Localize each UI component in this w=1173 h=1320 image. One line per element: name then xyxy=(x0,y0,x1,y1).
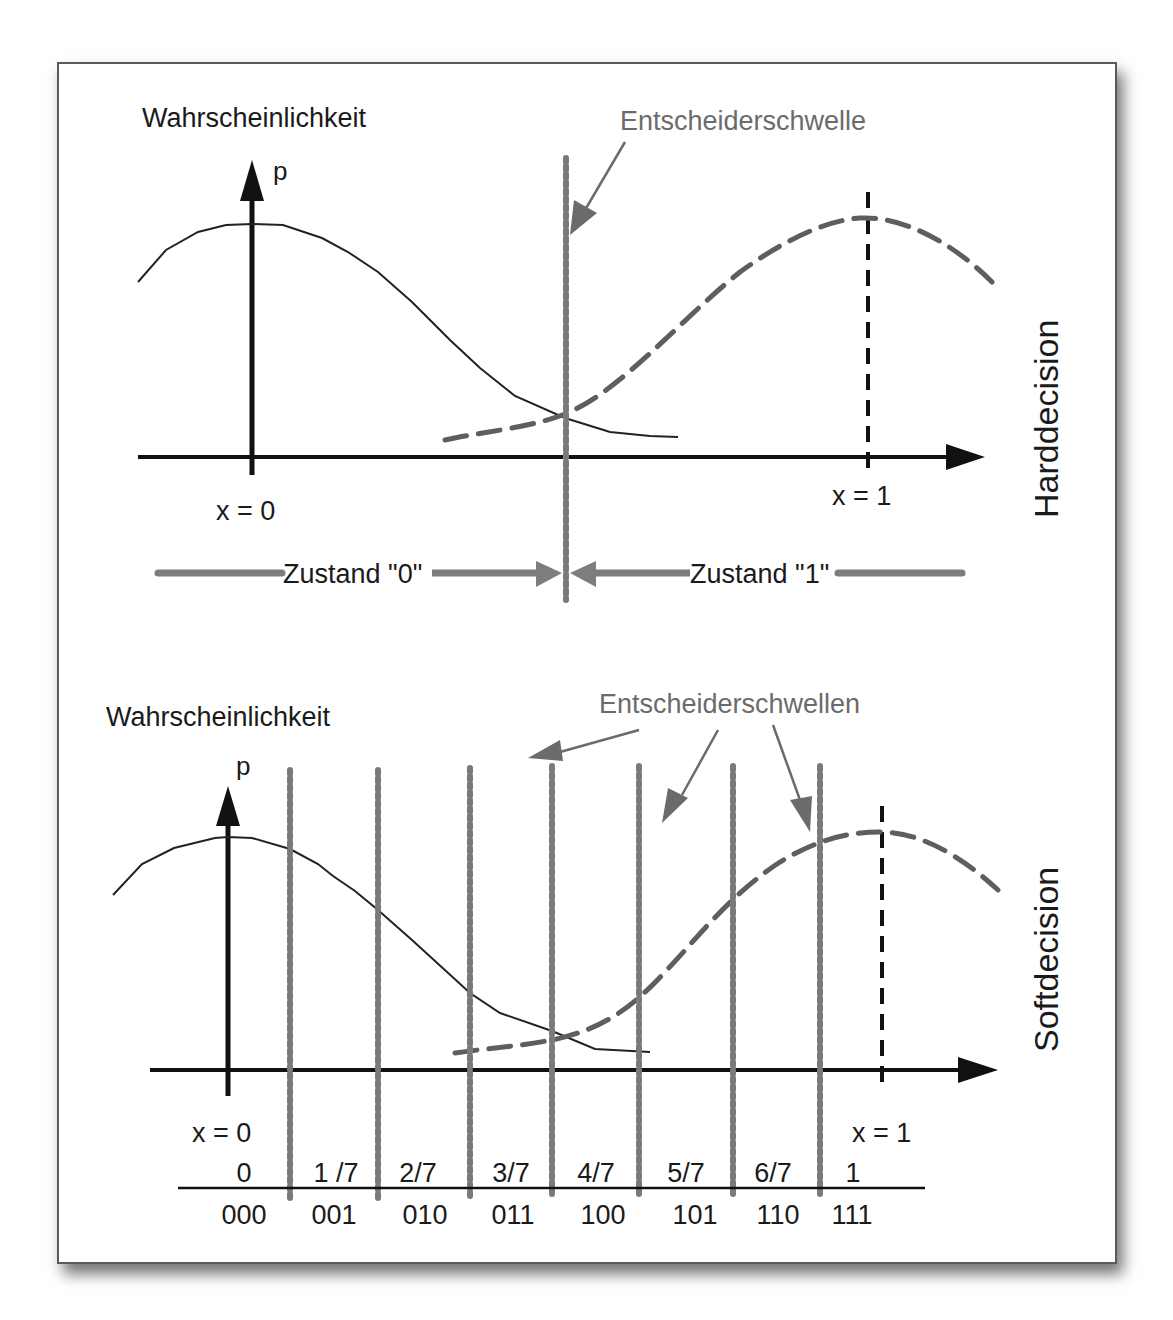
level-label: 3/7 xyxy=(492,1158,530,1188)
bottom-x0-label: x = 0 xyxy=(192,1118,251,1148)
level-label: 2/7 xyxy=(399,1158,437,1188)
code-label: 110 xyxy=(756,1200,799,1230)
top-distribution-curve-1 xyxy=(445,218,992,440)
level-label: 4/7 xyxy=(577,1158,615,1188)
bottom-y-axis-symbol: p xyxy=(236,751,250,781)
code-label: 001 xyxy=(311,1200,356,1230)
annotation-arrow-line xyxy=(682,730,718,795)
top-distribution-curve-0 xyxy=(138,224,678,437)
zone0-label: Zustand "0" xyxy=(283,559,422,589)
bottom-threshold-label: Entscheiderschwellen xyxy=(599,689,860,719)
code-label: 010 xyxy=(402,1200,447,1230)
code-label: 101 xyxy=(672,1200,717,1230)
arrow-right-icon xyxy=(946,444,985,470)
annotation-arrow-line xyxy=(560,730,639,752)
arrow-right-icon xyxy=(536,561,562,587)
quantization-codes: 000 001 010 011 100 101 110 111 xyxy=(221,1200,872,1230)
level-label: 0 xyxy=(236,1158,251,1188)
level-label: 1 /7 xyxy=(313,1158,358,1188)
code-label: 000 xyxy=(221,1200,266,1230)
top-threshold-label: Entscheiderschwelle xyxy=(620,106,866,136)
bottom-distribution-curve-0 xyxy=(113,837,650,1052)
arrow-up-icon xyxy=(240,160,264,201)
level-label: 1 xyxy=(845,1158,860,1188)
code-label: 011 xyxy=(491,1200,534,1230)
bottom-side-label: Softdecision xyxy=(1027,867,1065,1052)
arrow-diagonal-icon xyxy=(528,740,563,761)
arrow-left-icon xyxy=(570,561,596,587)
level-label: 6/7 xyxy=(754,1158,792,1188)
bottom-threshold-lines xyxy=(290,766,820,1202)
code-label: 100 xyxy=(580,1200,625,1230)
top-side-label: Harddecision xyxy=(1027,320,1065,518)
code-label: 111 xyxy=(831,1200,872,1230)
bottom-x1-label: x = 1 xyxy=(852,1118,911,1148)
arrow-diagonal-icon xyxy=(570,200,597,235)
top-x1-label: x = 1 xyxy=(832,481,891,511)
top-x0-label: x = 0 xyxy=(216,496,275,526)
bottom-distribution-curve-1 xyxy=(455,832,998,1053)
top-y-axis-title: Wahrscheinlichkeit xyxy=(142,103,367,133)
arrow-up-icon xyxy=(216,786,240,826)
annotation-arrow-line xyxy=(773,725,800,800)
decision-zone-bar: Zustand "0" Zustand "1" xyxy=(158,559,962,589)
annotation-arrow-line xyxy=(585,142,625,210)
top-y-axis-symbol: p xyxy=(273,156,287,186)
bottom-panel: Wahrscheinlichkeit p Entscheiderschwelle… xyxy=(106,689,1065,1230)
level-label: 5/7 xyxy=(667,1158,705,1188)
arrow-diagonal-icon xyxy=(790,796,812,832)
top-panel: Wahrscheinlichkeit p Entscheiderschwelle… xyxy=(138,103,1065,600)
quantization-levels: 0 1 /7 2/7 3/7 4/7 5/7 6/7 1 xyxy=(236,1158,860,1188)
diagram-canvas: Wahrscheinlichkeit p Entscheiderschwelle… xyxy=(0,0,1173,1320)
zone1-label: Zustand "1" xyxy=(690,559,829,589)
bottom-y-axis-title: Wahrscheinlichkeit xyxy=(106,702,331,732)
arrow-right-icon xyxy=(958,1057,998,1083)
